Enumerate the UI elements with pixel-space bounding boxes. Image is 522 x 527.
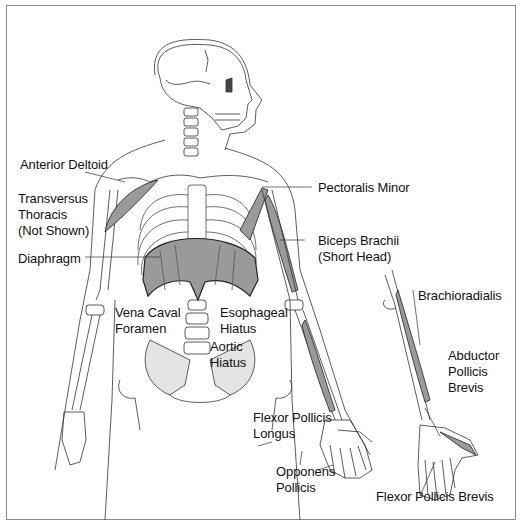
label-opponens-pollicis-line1: Opponens [276, 464, 335, 479]
skull-icon [158, 44, 252, 130]
label-abductor-pollicis-brevis-line3: Brevis [448, 380, 484, 395]
cervical-spine [184, 108, 198, 156]
lumbar-spine [184, 300, 210, 354]
label-opponens-pollicis-line2: Pollicis [276, 480, 316, 495]
label-aortic-hiatus-line2: Hiatus [210, 355, 246, 370]
label-vena-caval-line1: Vena Caval [115, 305, 181, 320]
label-esophageal-hiatus-line1: Esophageal [220, 305, 288, 320]
label-biceps-brachii-line1: Biceps Brachii [318, 233, 399, 248]
label-transversus-thoracis-line3: (Not Shown) [18, 223, 89, 238]
label-transversus-thoracis-line2: Thoracis [18, 207, 67, 222]
diaphragm-muscle [143, 239, 258, 301]
label-diaphragm: Diaphragm [18, 251, 81, 266]
label-abductor-pollicis-brevis-line1: Abductor [448, 348, 499, 363]
label-transversus-thoracis-line1: Transversus [18, 191, 88, 206]
label-biceps-brachii-line2: (Short Head) [318, 249, 391, 264]
label-abductor-pollicis-brevis-line2: Pollicis [448, 364, 488, 379]
label-anterior-deltoid: Anterior Deltoid [20, 157, 108, 172]
label-vena-caval-line2: Foramen [115, 321, 166, 336]
label-flexor-pollicis-longus-line2: Longus [253, 426, 295, 441]
label-esophageal-hiatus-line2: Hiatus [220, 321, 256, 336]
label-flexor-pollicis-longus-line1: Flexor Pollicis [253, 410, 332, 425]
label-aortic-hiatus-line1: Aortic [210, 339, 243, 354]
label-brachioradialis: Brachioradialis [418, 288, 502, 303]
label-pectoralis-minor: Pectoralis Minor [318, 180, 410, 195]
label-flexor-pollicis-brevis: Flexor Pollicis Brevis [376, 489, 494, 504]
